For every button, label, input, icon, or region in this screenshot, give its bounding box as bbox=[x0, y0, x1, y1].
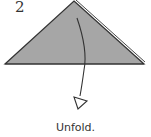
arrowhead-icon bbox=[74, 97, 87, 109]
folded-paper-triangle bbox=[5, 1, 144, 64]
step-caption: Unfold. bbox=[0, 121, 151, 134]
fold-diagram bbox=[0, 0, 151, 137]
